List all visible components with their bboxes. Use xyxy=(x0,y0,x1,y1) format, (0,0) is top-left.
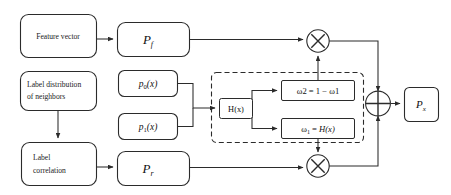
omega2-label: ω2 = 1 − ω1 xyxy=(297,86,340,96)
p1-label: p1(x) xyxy=(138,122,158,133)
node-pf[interactable]: Pf xyxy=(118,23,190,57)
feature-vector-label: Feature vector xyxy=(36,32,80,41)
edge-p0-to-hx xyxy=(178,84,215,109)
diagram-canvas: Feature vector Label distribution of nei… xyxy=(0,0,451,195)
omega1-label: ω1 = H(x) xyxy=(301,124,335,135)
pf-box[interactable] xyxy=(118,23,190,57)
node-feature-vector[interactable]: Feature vector xyxy=(21,15,97,58)
p0-arg: (x) xyxy=(147,79,158,90)
node-pr[interactable]: Pr xyxy=(118,152,190,186)
node-px[interactable]: Px xyxy=(405,88,439,122)
operator-add[interactable] xyxy=(366,91,391,116)
label-correlation-label-line1: Label xyxy=(33,153,50,162)
omega1-func: H(x) xyxy=(318,124,335,134)
label-distribution-label-line1: Label distribution xyxy=(27,80,81,89)
edge-hx-to-omega2 xyxy=(252,91,277,104)
p1-arg: (x) xyxy=(147,122,158,133)
node-omega1[interactable]: ω1 = H(x) xyxy=(282,119,355,139)
label-correlation-label-line2: correlation xyxy=(33,166,66,175)
edge-hx-to-omega1 xyxy=(252,113,277,129)
label-distribution-label-line2: of neighbors xyxy=(27,92,65,101)
omega1-eq: = xyxy=(310,124,319,134)
node-hx[interactable]: H(x) xyxy=(220,99,253,119)
node-label-distribution[interactable]: Label distribution of neighbors xyxy=(21,72,97,111)
node-p0[interactable]: p0(x) xyxy=(119,71,178,97)
hx-label: H(x) xyxy=(228,105,244,114)
node-p1[interactable]: p1(x) xyxy=(119,114,178,140)
node-omega2[interactable]: ω2 = 1 − ω1 xyxy=(282,81,355,101)
label-distribution-box[interactable] xyxy=(21,72,97,111)
edge-p1-to-junction xyxy=(178,108,193,127)
operator-multiply-bottom[interactable] xyxy=(307,155,329,177)
diagram-svg: Feature vector Label distribution of nei… xyxy=(0,0,451,195)
pf-base: P xyxy=(142,32,151,47)
p0-label: p0(x) xyxy=(138,79,158,90)
operator-multiply-top[interactable] xyxy=(307,30,329,52)
label-correlation-box[interactable] xyxy=(22,143,97,186)
pr-base: P xyxy=(141,161,150,176)
node-label-correlation[interactable]: Label correlation xyxy=(22,143,97,186)
